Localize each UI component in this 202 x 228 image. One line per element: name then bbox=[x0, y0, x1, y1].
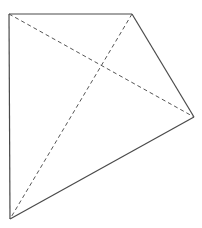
edge-bc bbox=[132, 14, 194, 117]
edge-da bbox=[9, 14, 10, 219]
diagonals bbox=[9, 14, 194, 219]
quadrilateral-diagram bbox=[0, 0, 202, 228]
edge-cd bbox=[10, 117, 194, 219]
edges bbox=[9, 14, 194, 219]
diagonal-bd bbox=[10, 14, 132, 219]
